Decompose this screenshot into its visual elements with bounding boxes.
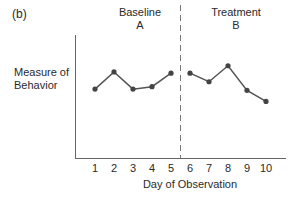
phase-a-code: A [110, 19, 170, 32]
y-axis-label-line1: Measure of [14, 66, 69, 79]
data-point [225, 63, 230, 68]
data-point [187, 71, 192, 76]
data-point [111, 69, 116, 74]
x-tick-label: 6 [187, 162, 193, 174]
data-point [244, 88, 249, 93]
data-point [149, 84, 154, 89]
data-point [206, 79, 211, 84]
x-tick-label: 5 [168, 162, 174, 174]
phase-b-title: Treatment B [206, 6, 266, 32]
phase-a-title: Baseline A [110, 6, 170, 32]
x-axis-label: Day of Observation [120, 178, 260, 191]
x-tick-label: 3 [130, 162, 136, 174]
panel-label: (b) [12, 8, 27, 21]
phase-b-code: B [206, 19, 266, 32]
data-point [263, 99, 268, 104]
x-tick-label: 7 [206, 162, 212, 174]
x-tick-labels: 12345678910 [92, 162, 272, 174]
phase-a-name: Baseline [110, 6, 170, 19]
y-axis-label-line2: Behavior [14, 79, 69, 92]
x-tick-label: 1 [92, 162, 98, 174]
x-tick-label: 4 [149, 162, 155, 174]
data-point [130, 87, 135, 92]
x-tick-label: 10 [260, 162, 272, 174]
phase-b-name: Treatment [206, 6, 266, 19]
x-tick-label: 2 [111, 162, 117, 174]
data-point [92, 87, 97, 92]
x-tick-label: 9 [244, 162, 250, 174]
series-line-treatment [190, 66, 266, 102]
x-tick-label: 8 [225, 162, 231, 174]
data-point [168, 71, 173, 76]
y-axis-label: Measure of Behavior [14, 66, 69, 92]
